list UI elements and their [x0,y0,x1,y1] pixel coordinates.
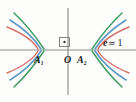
vertex-label-a2-letter: A [77,54,84,65]
right-branch-green-lower [92,51,122,87]
figure-canvas [0,0,136,102]
eccentricity-label: e≃1 [103,38,122,48]
eccentricity-operator: ≃ [107,38,117,48]
vertex-label-a1: A1 [34,55,43,65]
vertex-label-a2: A2 [77,55,86,65]
origin-label: O [64,55,71,65]
conic-sections-figure: A1 O A2 e≃1 [0,0,136,102]
axes-group [0,8,136,95]
vertex-label-a1-letter: A [34,54,41,65]
vertex-label-a2-subscript: 2 [84,60,87,66]
vertex-label-a1-subscript: 1 [41,60,44,66]
left-branch-green-upper [14,13,44,49]
eccentricity-value: 1 [117,37,122,48]
